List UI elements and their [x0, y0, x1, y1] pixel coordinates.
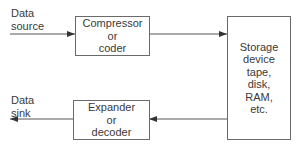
data-sink-label: Data sink: [11, 94, 34, 120]
data-source-label-line1: Data: [11, 7, 44, 20]
expander-line3: decoder: [92, 126, 132, 139]
compressor-line1: Compressor: [83, 17, 143, 30]
storage-line3: tape,: [247, 66, 271, 79]
storage-line4: disk,: [248, 78, 271, 91]
data-sink-label-line1: Data: [11, 94, 34, 107]
data-source-label: Data source: [11, 7, 44, 33]
compressor-box: Compressor or coder: [75, 16, 150, 56]
storage-device-box: Storage device tape, disk, RAM, etc.: [227, 16, 291, 140]
storage-line6: etc.: [250, 103, 268, 116]
data-source-label-line2: source: [11, 20, 44, 33]
expander-box: Expander or decoder: [73, 100, 150, 140]
storage-line1: Storage: [240, 41, 279, 54]
storage-line2: device: [243, 53, 275, 66]
compressor-line2: or: [108, 30, 118, 43]
expander-line1: Expander: [88, 101, 135, 114]
compressor-line3: coder: [99, 42, 127, 55]
expander-line2: or: [107, 114, 117, 127]
storage-line5: RAM,: [245, 91, 273, 104]
data-sink-label-line2: sink: [11, 107, 34, 120]
